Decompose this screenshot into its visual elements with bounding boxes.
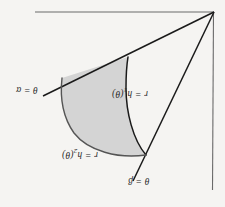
label-h1-subscript: 1 xyxy=(124,86,128,94)
polar-region-figure: θ = α r = h1(θ) r = h2(θ) θ = β xyxy=(0,0,225,207)
label-curve-h1: r = h1(θ) xyxy=(112,86,148,99)
figure-canvas xyxy=(0,0,225,207)
label-theta-equals-alpha: θ = α xyxy=(16,85,38,95)
vertical-axis-line xyxy=(213,12,214,190)
label-h2-main: r = h xyxy=(77,150,98,160)
label-h1-main: r = h xyxy=(127,89,148,99)
label-h1-argument: (θ) xyxy=(112,89,124,99)
ray-theta-alpha xyxy=(43,12,214,96)
label-curve-h2: r = h2(θ) xyxy=(62,147,98,160)
label-h2-argument: (θ) xyxy=(62,150,74,160)
shaded-region xyxy=(61,57,146,156)
label-h2-subscript: 2 xyxy=(74,147,78,155)
label-theta-equals-beta: θ = β xyxy=(128,176,150,186)
